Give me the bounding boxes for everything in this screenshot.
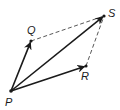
point-s xyxy=(102,14,105,17)
point-r xyxy=(84,64,87,67)
vector-p-s xyxy=(11,17,103,91)
dashed-segment-q-s xyxy=(31,16,104,41)
vector-p-r xyxy=(11,66,85,91)
vector-diagram: P Q R S xyxy=(0,0,120,110)
label-s: S xyxy=(108,7,116,19)
point-p xyxy=(9,89,13,93)
label-p: P xyxy=(5,96,13,108)
label-r: R xyxy=(81,70,89,82)
label-q: Q xyxy=(27,24,36,36)
point-q xyxy=(29,39,32,42)
